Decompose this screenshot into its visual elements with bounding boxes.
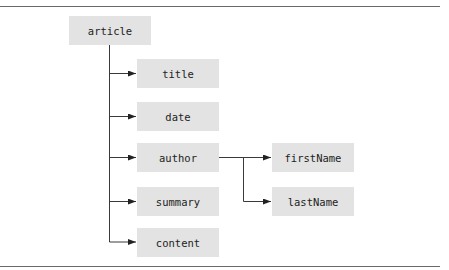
node-label: content xyxy=(156,237,200,249)
node-summary: summary xyxy=(137,187,219,216)
node-label: author xyxy=(159,152,197,164)
node-lastname: lastName xyxy=(272,187,354,216)
connector-lines xyxy=(0,0,449,270)
node-date: date xyxy=(137,102,219,131)
node-label: summary xyxy=(156,196,200,208)
node-label: firstName xyxy=(285,152,342,164)
node-author: author xyxy=(137,143,219,172)
node-article: article xyxy=(69,16,151,45)
node-title: title xyxy=(137,59,219,88)
node-label: title xyxy=(162,68,194,80)
node-label: lastName xyxy=(288,196,339,208)
node-firstname: firstName xyxy=(272,143,354,172)
node-label: date xyxy=(165,111,190,123)
xml-structure-diagram: article title date author summary conten… xyxy=(0,0,449,270)
node-content: content xyxy=(137,228,219,257)
node-label: article xyxy=(88,25,132,37)
